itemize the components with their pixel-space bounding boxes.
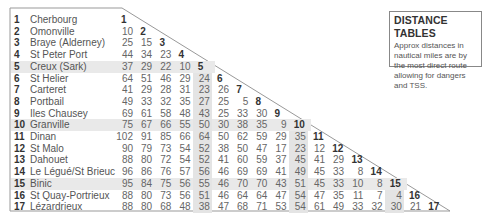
distance-cell: 10 <box>115 26 133 38</box>
port-name: Binic <box>30 178 52 190</box>
distance-cell: 29 <box>269 131 287 143</box>
table-row: 11Dinan10291856664506259293511 <box>11 131 471 143</box>
distance-cell: 45 <box>307 166 325 178</box>
distance-cell: 33 <box>326 166 344 178</box>
port-number: 3 <box>14 37 26 49</box>
table-row: 17Lézardrieux888068483847687153546149333… <box>11 201 471 213</box>
column-header-number: 2 <box>136 26 158 38</box>
distance-cell: 52 <box>192 143 210 155</box>
distance-cell: 17 <box>269 143 287 155</box>
distance-cell: 26 <box>211 84 229 96</box>
distance-cell: 73 <box>153 190 171 202</box>
distance-cell: 10 <box>345 178 363 190</box>
table-row: 9Iles Chausey69615848432533309 <box>11 108 471 120</box>
distance-cell: 66 <box>153 119 171 131</box>
distance-cell: 96 <box>115 166 133 178</box>
column-header-number: 4 <box>175 49 197 61</box>
distance-cell: 69 <box>249 166 267 178</box>
distance-cell: 49 <box>326 201 344 213</box>
distance-cell: 25 <box>211 108 229 120</box>
distance-cell: 35 <box>173 96 191 108</box>
port-number: 2 <box>14 26 26 38</box>
port-number: 16 <box>14 190 26 202</box>
column-header-number: 15 <box>386 178 408 190</box>
distance-cell: 33 <box>230 108 248 120</box>
distance-cell: 50 <box>230 143 248 155</box>
column-header-number: 12 <box>328 143 350 155</box>
distance-cell: 51 <box>192 190 210 202</box>
port-name: Portbail <box>30 96 64 108</box>
distance-cell: 23 <box>192 84 210 96</box>
column-header-number: 11 <box>309 131 331 143</box>
distance-cell: 38 <box>192 201 210 213</box>
distance-cell: 41 <box>211 154 229 166</box>
distance-cell: 44 <box>115 49 133 61</box>
distance-cell: 84 <box>134 178 152 190</box>
distance-cell: 30 <box>384 201 402 213</box>
distance-cell: 30 <box>249 108 267 120</box>
distance-cell: 29 <box>173 73 191 85</box>
distance-cell: 54 <box>288 190 306 202</box>
distance-cell: 64 <box>192 131 210 143</box>
table-row: 16St Quay-Portrieux888073565146646447544… <box>11 190 471 202</box>
distance-cell: 76 <box>153 166 171 178</box>
column-header-number: 6 <box>213 73 235 85</box>
distance-cell: 61 <box>134 108 152 120</box>
distance-cell: 55 <box>173 119 191 131</box>
distance-cell: 59 <box>249 131 267 143</box>
table-row: 13Dahouet88807254524160593745412913 <box>11 154 471 166</box>
distance-cell: 58 <box>153 108 171 120</box>
distance-cell: 47 <box>211 201 229 213</box>
port-number: 10 <box>14 119 26 131</box>
distance-cell: 88 <box>115 190 133 202</box>
column-header-number: 10 <box>290 119 312 131</box>
port-number: 5 <box>14 61 26 73</box>
distance-cell: 73 <box>153 143 171 155</box>
port-name: Le Légué/St Brieuc <box>30 166 115 178</box>
distance-cell: 35 <box>249 119 267 131</box>
distance-cell: 32 <box>365 201 383 213</box>
port-number: 6 <box>14 73 26 85</box>
port-name: St Peter Port <box>30 49 87 61</box>
distance-cell: 102 <box>115 131 133 143</box>
port-number: 17 <box>14 201 26 213</box>
distance-cell: 75 <box>115 119 133 131</box>
distance-cell: 8 <box>345 166 363 178</box>
distance-cell: 54 <box>173 143 191 155</box>
distance-cell: 48 <box>173 108 191 120</box>
distance-cell: 67 <box>134 119 152 131</box>
distance-cell: 46 <box>211 166 229 178</box>
distance-cell: 56 <box>173 178 191 190</box>
distance-cell: 46 <box>153 73 171 85</box>
distance-cell: 37 <box>115 61 133 73</box>
distance-cell: 48 <box>173 201 191 213</box>
distance-cell: 52 <box>192 154 210 166</box>
distance-cell: 30 <box>211 119 229 131</box>
distance-cell: 49 <box>288 166 306 178</box>
distance-cell: 56 <box>173 190 191 202</box>
port-name: Dahouet <box>30 154 68 166</box>
column-header-number: 8 <box>251 96 273 108</box>
distance-cell: 33 <box>345 201 363 213</box>
port-name: Carteret <box>30 84 66 96</box>
column-header-number: 3 <box>155 37 177 49</box>
distance-cell: 56 <box>192 166 210 178</box>
distance-cell: 32 <box>153 96 171 108</box>
distance-cell: 80 <box>134 154 152 166</box>
distance-cell: 54 <box>288 201 306 213</box>
distance-cell: 59 <box>249 154 267 166</box>
distance-cell: 41 <box>115 84 133 96</box>
column-header-number: 13 <box>347 154 369 166</box>
port-number: 7 <box>14 84 26 96</box>
port-number: 1 <box>14 14 26 26</box>
distance-cell: 22 <box>153 61 171 73</box>
distance-cell: 85 <box>153 131 171 143</box>
distance-cell: 29 <box>326 154 344 166</box>
distance-cell: 91 <box>134 131 152 143</box>
distance-cell: 25 <box>115 37 133 49</box>
distance-cell: 28 <box>153 84 171 96</box>
distance-cell: 80 <box>134 201 152 213</box>
port-number: 8 <box>14 96 26 108</box>
distance-cell: 23 <box>153 49 171 61</box>
distance-cell: 41 <box>307 154 325 166</box>
